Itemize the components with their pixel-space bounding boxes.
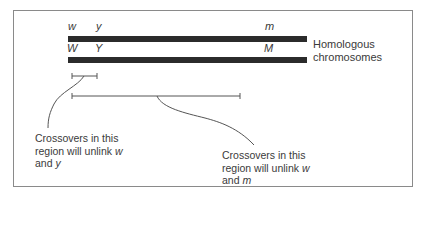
gene-symbol: m xyxy=(242,174,251,186)
region-bracket-w-m xyxy=(72,93,240,99)
annotation-w-y: Crossovers in this region will unlink w … xyxy=(35,132,123,170)
annotation-w-m: Crossovers in this region will unlink w … xyxy=(222,149,310,187)
leader-line-w-y xyxy=(48,76,84,128)
annotation-w-m-line2: region will unlink w xyxy=(222,162,310,175)
gene-symbol: y xyxy=(55,157,60,169)
annotation-w-y-line2: region will unlink w xyxy=(35,145,123,158)
gene-symbol: w xyxy=(302,162,310,174)
annotation-w-m-line1: Crossovers in this xyxy=(222,149,310,162)
gene-symbol: w xyxy=(115,145,123,157)
region-bracket-w-y xyxy=(72,73,97,79)
leader-line-w-m xyxy=(157,96,254,145)
annotation-w-m-line3: and m xyxy=(222,174,310,187)
annotation-w-y-line3: and y xyxy=(35,157,123,170)
annotation-text: and xyxy=(35,157,55,169)
annotation-text: region will unlink xyxy=(222,162,302,174)
annotation-text: and xyxy=(222,174,242,186)
annotation-w-y-line1: Crossovers in this xyxy=(35,132,123,145)
annotation-text: region will unlink xyxy=(35,145,115,157)
